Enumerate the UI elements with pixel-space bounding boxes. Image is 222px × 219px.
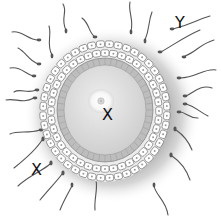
label-y: Y [175,15,185,31]
label-x-oocyte: X [102,107,113,123]
label-x-corona: X [31,162,42,178]
diagram-canvas: Y X X [0,0,222,219]
nucleolus-core [100,100,102,102]
